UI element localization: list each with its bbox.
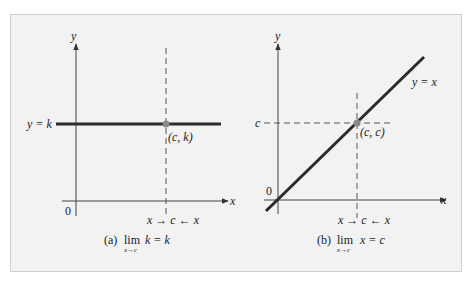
x-axis-label: x [229, 194, 236, 208]
caption-lim: lim [337, 233, 354, 247]
c-tick-label: c [255, 116, 261, 130]
panel-a: y x 0 y = k (c, k) x → c ← x (a) lim x→c… [26, 29, 236, 254]
origin-label: 0 [266, 184, 272, 198]
caption-sub: x→c [336, 246, 351, 254]
origin-label: 0 [65, 204, 71, 218]
caption-lim: lim [124, 233, 141, 247]
y-axis-label: y [70, 29, 77, 43]
panel-b: y x 0 y = x (c, c) c x → c ← x (b) lim x… [255, 29, 447, 254]
limit-diagrams: y x 0 y = k (c, k) x → c ← x (a) lim x→c… [0, 0, 475, 281]
point-label: (c, c) [360, 125, 385, 139]
caption-expr: x = c [359, 233, 385, 247]
point-c-k [163, 121, 170, 128]
line-label: y = k [26, 117, 52, 131]
caption-sub: x→c [123, 246, 138, 254]
line-label: y = x [411, 75, 437, 89]
approach-label: x → c ← x [337, 213, 391, 227]
y-axis-label: y [274, 29, 281, 43]
point-label: (c, k) [168, 130, 193, 144]
caption-expr: k = k [145, 233, 170, 247]
x-axis-label: x [440, 193, 447, 207]
caption-prefix: (a) [104, 233, 117, 247]
identity-line [266, 57, 424, 211]
caption-prefix: (b) [317, 233, 331, 247]
approach-label: x → c ← x [146, 213, 200, 227]
